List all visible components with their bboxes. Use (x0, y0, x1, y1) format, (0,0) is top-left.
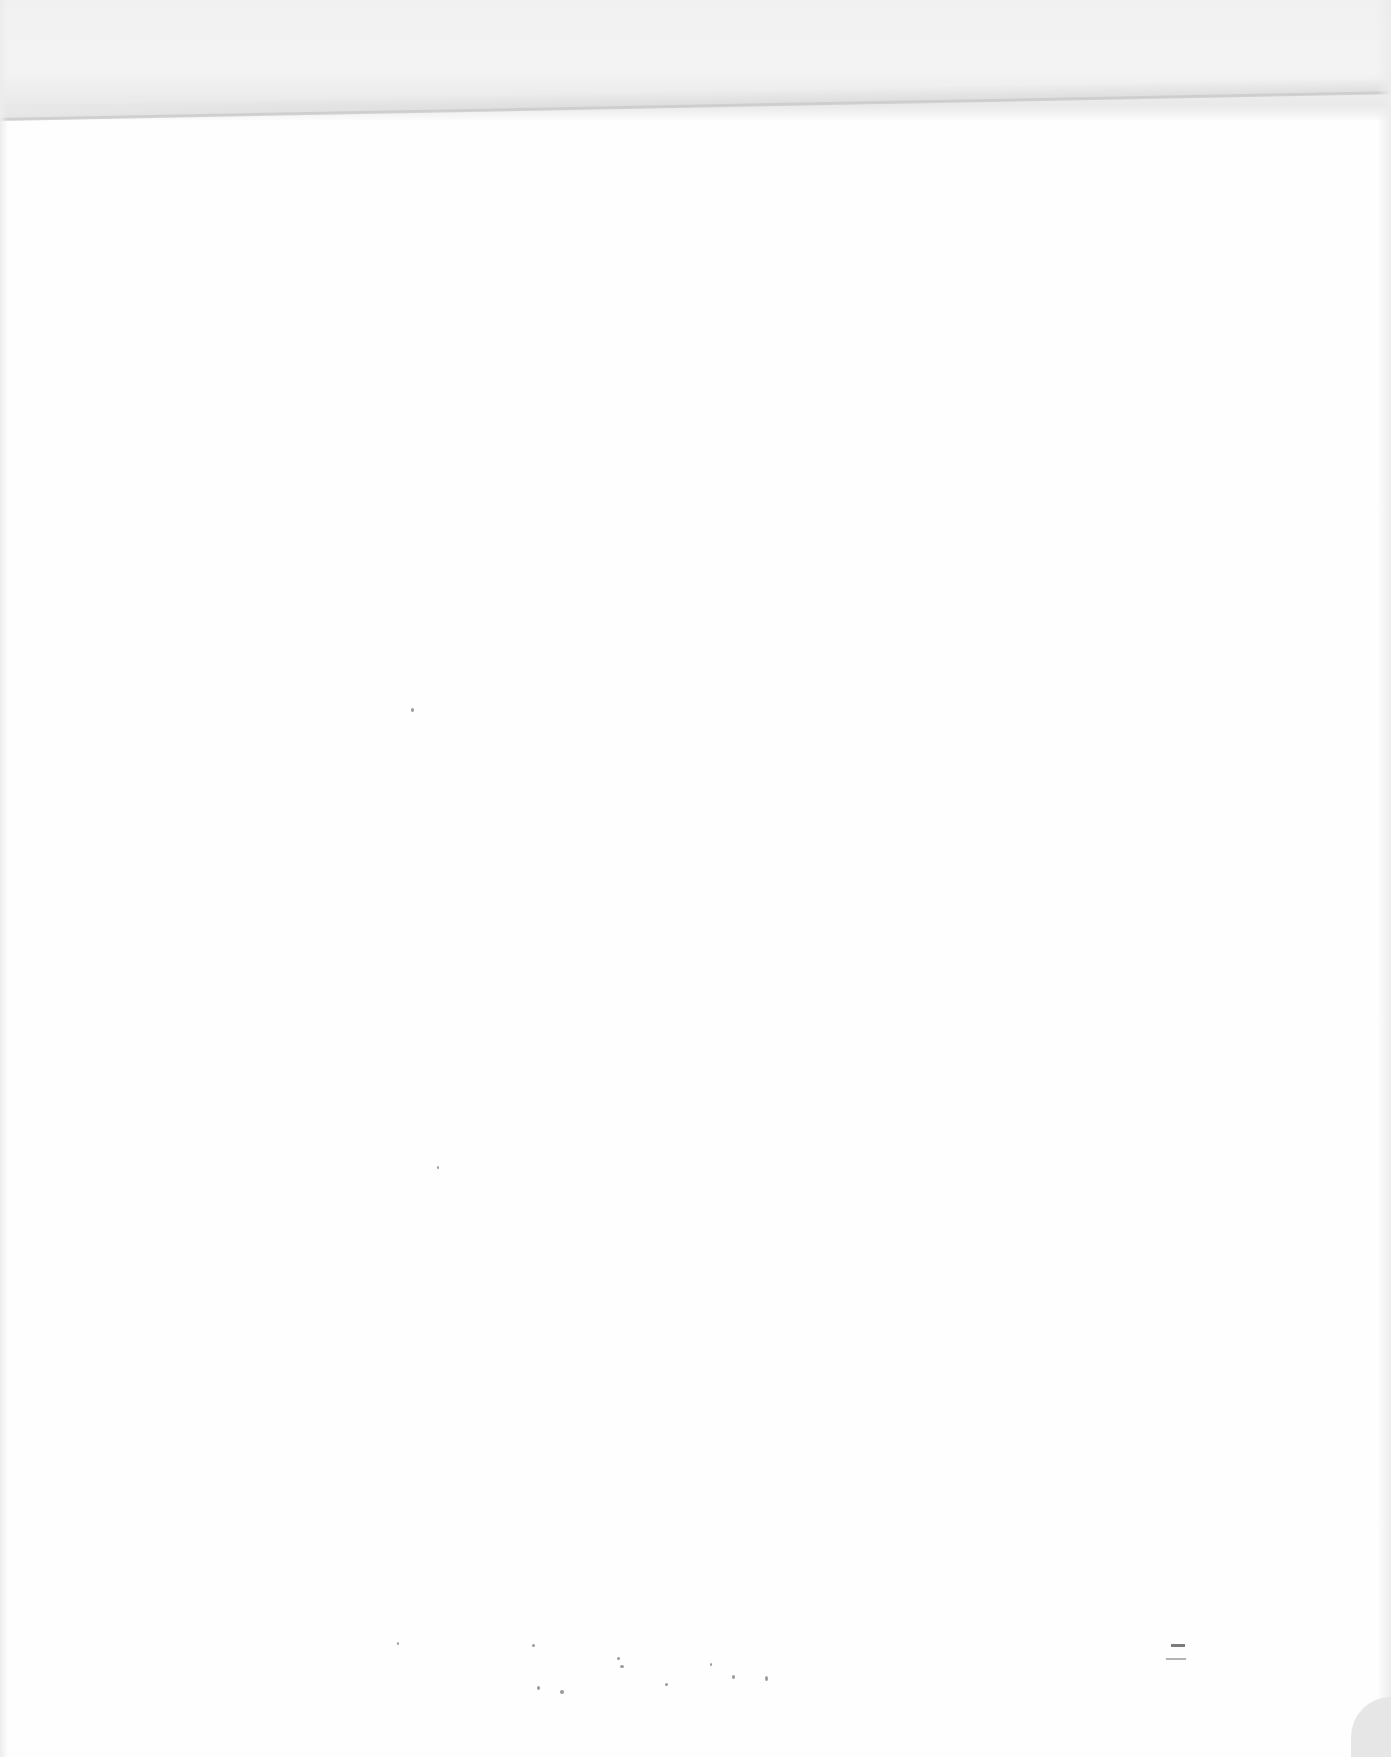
scanned-page (0, 0, 1391, 1757)
scan-speck (665, 1683, 668, 1686)
scan-speck (532, 1644, 535, 1647)
scan-speck (732, 1675, 735, 1679)
scan-speck (411, 708, 414, 712)
scan-speck (617, 1657, 620, 1660)
scan-speck (765, 1676, 768, 1681)
scan-mark (1166, 1658, 1186, 1660)
right-page-edge (1377, 0, 1391, 1757)
scan-mark (1171, 1644, 1185, 1647)
page-corner (1351, 1697, 1391, 1757)
scan-speck (710, 1663, 712, 1666)
scan-speck (397, 1642, 399, 1645)
scan-speck (620, 1665, 624, 1668)
scan-speck (437, 1166, 439, 1169)
scan-speck (537, 1686, 540, 1690)
left-page-edge (0, 0, 8, 1757)
scan-speck (560, 1690, 564, 1694)
